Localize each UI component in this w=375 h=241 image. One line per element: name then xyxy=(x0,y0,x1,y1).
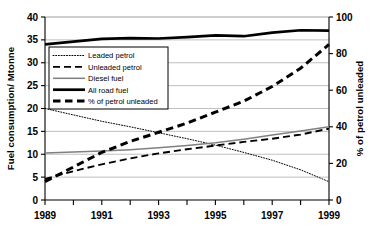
y-axis-left-title: Fuel consumption/ Mtonne xyxy=(5,47,16,170)
y-axis-right-title: % of petrol unleaded xyxy=(354,61,365,157)
y-axis-left-tick-label: 35 xyxy=(27,34,39,45)
y-axis-left-tick-label: 30 xyxy=(27,57,39,68)
series-line-all-road-fuel xyxy=(45,30,329,44)
chart-container: 0510152025303540020406080100198919911993… xyxy=(0,0,375,241)
x-axis-tick-label: 1997 xyxy=(261,210,284,221)
fuel-consumption-chart: 0510152025303540020406080100198919911993… xyxy=(0,0,375,241)
series-line-unleaded-petrol xyxy=(45,129,329,179)
x-axis-tick-label: 1995 xyxy=(204,210,227,221)
legend-label-all-road-fuel: All road fuel xyxy=(88,86,128,95)
y-axis-left-tick-label: 25 xyxy=(27,80,39,91)
y-axis-right-tick-label: 60 xyxy=(336,85,348,96)
legend-label-leaded-petrol: Leaded petrol xyxy=(88,51,135,60)
x-axis-tick-label: 1989 xyxy=(34,210,57,221)
y-axis-left-tick-label: 0 xyxy=(32,195,38,206)
x-axis-tick-label: 1991 xyxy=(91,210,114,221)
y-axis-right-tick-label: 100 xyxy=(336,12,353,23)
legend-label-diesel-fuel: Diesel fuel xyxy=(88,74,124,83)
y-axis-right-tick-label: 20 xyxy=(336,158,348,169)
y-axis-left-tick-label: 20 xyxy=(27,103,39,114)
x-axis-tick-label: 1999 xyxy=(318,210,341,221)
y-axis-left-tick-label: 10 xyxy=(27,149,39,160)
y-axis-left-tick-label: 40 xyxy=(27,12,39,23)
y-axis-left-tick-label: 15 xyxy=(27,126,39,137)
legend-label-of-petrol-unleaded: % of petrol unleaded xyxy=(88,97,158,106)
y-axis-left-tick-label: 5 xyxy=(32,172,38,183)
y-axis-right-tick-label: 0 xyxy=(336,195,342,206)
legend-label-unleaded-petrol: Unleaded petrol xyxy=(88,63,142,72)
y-axis-right-tick-label: 40 xyxy=(336,121,348,132)
y-axis-right-tick-label: 80 xyxy=(336,48,348,59)
x-axis-tick-label: 1993 xyxy=(147,210,170,221)
